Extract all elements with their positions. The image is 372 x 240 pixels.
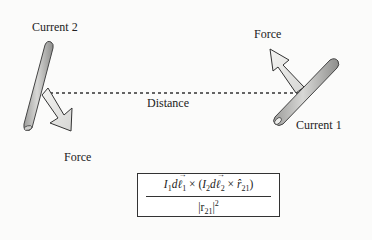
- force-formula-box: I1dℓ1 × (I2dℓ2 × r̂21) |r21|2: [137, 173, 280, 217]
- current-1-label: Current 1: [296, 118, 342, 133]
- force-arrow-current-1: [270, 49, 304, 93]
- formula-numerator: I1dℓ1 × (I2dℓ2 × r̂21): [138, 178, 279, 193]
- formula-denominator: |r21|2: [138, 199, 279, 216]
- force-arrow-current-2: [42, 88, 72, 131]
- force-label-top: Force: [254, 27, 281, 42]
- force-label-bottom: Force: [64, 150, 91, 165]
- current-2-label: Current 2: [32, 20, 78, 35]
- fraction-bar: [146, 196, 271, 197]
- distance-label: Distance: [147, 96, 189, 111]
- conductor-current-2: [24, 41, 54, 131]
